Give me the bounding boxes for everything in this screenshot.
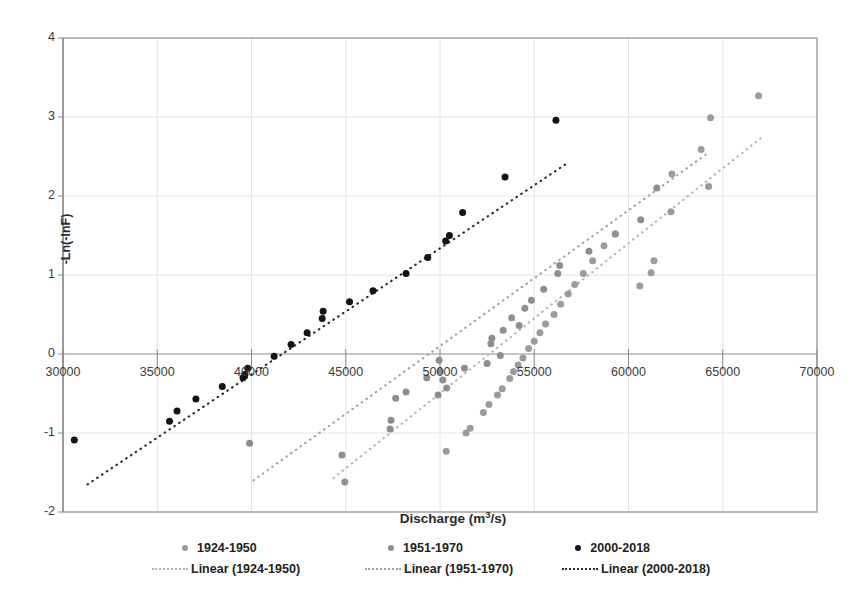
data-point — [551, 311, 558, 318]
x-axis-tick-label: 65000 — [688, 365, 758, 379]
x-axis-tick-label: 45000 — [311, 365, 381, 379]
data-point — [319, 315, 326, 322]
legend-item-series-2[interactable]: 2000-2018 — [571, 538, 752, 558]
legend-marker-line-icon — [562, 568, 598, 570]
data-point — [435, 392, 442, 399]
data-point — [341, 478, 348, 485]
data-point — [443, 448, 450, 455]
y-axis-tick-label: 1 — [29, 267, 55, 281]
data-point — [556, 262, 563, 269]
y-axis-tick-label: -2 — [29, 504, 55, 518]
x-axis-title: Discharge (m3/s) — [283, 511, 623, 526]
scatter-chart: -Ln(-lnF) Discharge (m3/s) -2-1012343000… — [0, 0, 867, 610]
data-point — [648, 269, 655, 276]
data-point — [166, 418, 173, 425]
chart-legend: 1924-1950 1951-1970 2000-2018 Linear (19… — [152, 538, 752, 584]
data-point — [71, 437, 78, 444]
data-point — [500, 327, 507, 334]
legend-row-series: 1924-1950 1951-1970 2000-2018 — [152, 538, 752, 558]
data-point — [499, 385, 506, 392]
y-axis-tick-label: 2 — [29, 188, 55, 202]
data-point — [565, 290, 572, 297]
y-axis-tick-label: 0 — [29, 346, 55, 360]
data-point — [755, 92, 762, 99]
series-2-points — [71, 117, 560, 444]
data-point — [667, 208, 674, 215]
y-axis-title: -Ln(-lnF) — [59, 169, 73, 309]
legend-marker-dot-icon — [388, 545, 394, 551]
legend-item-trendline-0[interactable]: Linear (1924-1950) — [152, 559, 365, 579]
legend-label: 1951-1970 — [403, 542, 463, 555]
data-point — [542, 320, 549, 327]
data-point — [521, 305, 528, 312]
data-point — [320, 308, 327, 315]
data-point — [528, 297, 535, 304]
data-point — [403, 270, 410, 277]
data-point — [536, 329, 543, 336]
legend-item-series-0[interactable]: 1924-1950 — [152, 538, 380, 558]
legend-marker-line-icon — [152, 568, 188, 570]
x-axis-title-text: Discharge (m3/s) — [400, 511, 507, 526]
data-point — [488, 335, 495, 342]
legend-row-trendlines: Linear (1924-1950) Linear (1951-1970) Li… — [152, 559, 752, 579]
data-point — [554, 270, 561, 277]
legend-marker-line-icon — [365, 568, 401, 570]
legend-item-trendline-1[interactable]: Linear (1951-1970) — [365, 559, 562, 579]
data-point — [467, 425, 474, 432]
x-axis-tick-label: 35000 — [122, 365, 192, 379]
data-point — [443, 384, 450, 391]
data-point — [637, 216, 644, 223]
data-point — [424, 254, 431, 261]
data-point — [525, 345, 532, 352]
data-point — [557, 301, 564, 308]
data-point — [653, 185, 660, 192]
data-point — [288, 341, 295, 348]
data-point — [540, 286, 547, 293]
data-point — [271, 353, 278, 360]
data-point — [508, 314, 515, 321]
data-point — [612, 230, 619, 237]
x-axis-tick-label: 40000 — [217, 365, 287, 379]
legend-item-trendline-2[interactable]: Linear (2000-2018) — [562, 559, 752, 579]
legend-label: 2000-2018 — [590, 542, 650, 555]
trendline-2 — [88, 164, 566, 484]
data-point — [446, 232, 453, 239]
data-point — [370, 287, 377, 294]
series-0-points — [443, 92, 762, 455]
data-point — [571, 281, 578, 288]
data-point — [387, 426, 394, 433]
data-point — [192, 396, 199, 403]
data-point — [502, 174, 509, 181]
legend-item-series-1[interactable]: 1951-1970 — [380, 538, 571, 558]
data-point — [174, 407, 181, 414]
data-point — [346, 298, 353, 305]
legend-label: Linear (2000-2018) — [601, 563, 710, 576]
data-point — [403, 388, 410, 395]
data-point — [219, 383, 226, 390]
legend-label: Linear (1951-1970) — [404, 563, 513, 576]
data-point — [519, 354, 526, 361]
data-point — [436, 357, 443, 364]
data-point — [480, 409, 487, 416]
data-point — [589, 257, 596, 264]
data-point — [304, 329, 311, 336]
data-point — [580, 270, 587, 277]
x-axis-tick-label: 70000 — [782, 365, 852, 379]
data-point — [552, 117, 559, 124]
data-point — [600, 242, 607, 249]
data-point — [246, 440, 253, 447]
x-axis-tick-label: 50000 — [405, 365, 475, 379]
data-point — [668, 170, 675, 177]
data-point — [484, 360, 491, 367]
data-point — [698, 146, 705, 153]
data-point — [636, 283, 643, 290]
y-axis-tick-label: 4 — [29, 30, 55, 44]
y-axis-tick-label: -1 — [29, 425, 55, 439]
x-axis-tick-label: 60000 — [594, 365, 664, 379]
data-point — [486, 401, 493, 408]
data-point — [494, 392, 501, 399]
data-point — [387, 417, 394, 424]
y-axis-tick-label: 3 — [29, 109, 55, 123]
trendline-0 — [333, 138, 760, 478]
legend-marker-dot-icon — [575, 545, 581, 551]
